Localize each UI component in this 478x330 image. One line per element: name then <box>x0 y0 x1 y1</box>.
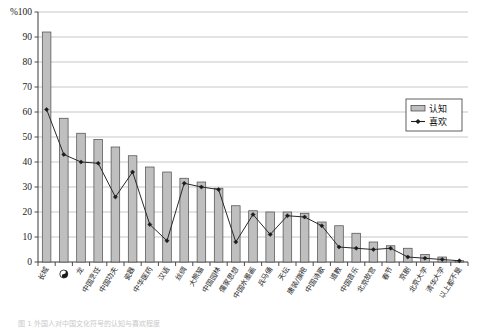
bar <box>180 178 189 262</box>
x-axis-category-label: 汉语 <box>156 265 171 282</box>
bar <box>163 172 172 262</box>
y-tick-label: 10 <box>23 232 33 242</box>
x-axis-category-label: 瓷器 <box>122 265 137 282</box>
y-tick-label: 50 <box>23 132 33 142</box>
y-tick-label: 20 <box>23 207 33 217</box>
legend-swatch-awareness <box>411 106 425 112</box>
awareness-preference-chart: 0102030405060708090100%长城龙中国烹饪中国功夫瓷器中华医药… <box>0 0 478 330</box>
legend-label-preference: 喜欢 <box>429 116 447 127</box>
x-axis-category-label: 兵马俑 <box>256 265 275 288</box>
x-axis-category-label: 天坛 <box>277 265 292 282</box>
x-axis-category-label: 春节 <box>380 265 395 282</box>
taiji-symbol-icon <box>60 270 68 278</box>
chart-container: 0102030405060708090100%长城龙中国烹饪中国功夫瓷器中华医药… <box>0 0 478 330</box>
x-axis-labels-group: 长城龙中国烹饪中国功夫瓷器中华医药汉语丝绸大熊猫中国园林儒家思想中国水墨画兵马俑… <box>36 264 464 299</box>
x-axis-category-label: 道教 <box>328 265 343 282</box>
legend-label-awareness: 认知 <box>429 103 447 114</box>
bar <box>266 212 275 262</box>
bar <box>94 140 103 263</box>
y-tick-label: 70 <box>23 82 33 92</box>
y-tick-label: 40 <box>23 157 33 167</box>
taiji-dot-light <box>63 271 64 272</box>
figure-caption: 图 1 外国人对中国文化符号的认知与喜欢程度 <box>18 318 468 328</box>
x-axis-category-label: 中国诗歌 <box>304 264 327 293</box>
y-tick-label: 30 <box>23 182 33 192</box>
x-axis-category-label: 丝绸 <box>173 265 188 282</box>
bar <box>300 213 309 262</box>
y-tick-label: 0 <box>27 257 32 267</box>
y-tick-label: 80 <box>23 57 33 67</box>
y-tick-label: 100 <box>18 7 33 17</box>
bar <box>77 133 86 262</box>
y-tick-label: 90 <box>23 32 33 42</box>
legend: 认知喜欢 <box>406 99 462 131</box>
bar <box>197 182 206 262</box>
bar-series-group <box>42 32 463 262</box>
x-axis-category-label: 龙 <box>74 265 85 276</box>
taiji-dot-dark <box>63 275 64 276</box>
bar <box>111 147 120 262</box>
bar <box>369 242 378 262</box>
bar <box>42 32 51 262</box>
bar <box>60 118 69 262</box>
y-tick-label: 60 <box>23 107 33 117</box>
y-axis-group: 0102030405060708090100% <box>10 7 38 267</box>
x-axis-category-label: 长城 <box>36 265 51 282</box>
x-axis-category-label: 京剧 <box>397 265 412 282</box>
y-axis-unit-label: % <box>10 7 18 17</box>
